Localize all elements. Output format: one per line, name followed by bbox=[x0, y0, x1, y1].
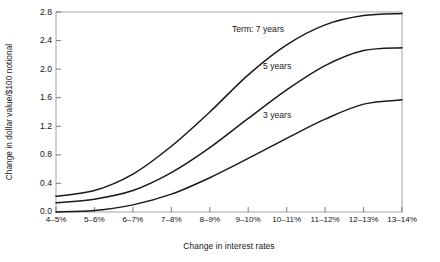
plot-frame bbox=[56, 12, 402, 212]
y-tick-label: 0.8 bbox=[26, 150, 52, 159]
series-label-7-years: Term: 7 years bbox=[232, 24, 284, 34]
y-tick-label: 2.8 bbox=[26, 8, 52, 17]
x-axis-tick-labels: 4–5% 5–6% 6–7% 7–8% 8–9% 9–10% 10–11% 11… bbox=[0, 215, 440, 229]
y-tick-label: 0.4 bbox=[26, 179, 52, 188]
y-tick-label: 2.0 bbox=[26, 65, 52, 74]
series-label-3-years: 3 years bbox=[263, 110, 291, 120]
chart-figure: Change in dollar value/$100 notional 2.8… bbox=[0, 0, 440, 262]
series-label-5-years: 5 years bbox=[263, 61, 291, 71]
x-axis-title: Change in interest rates bbox=[56, 241, 402, 251]
y-tick-label: 1.2 bbox=[26, 122, 52, 131]
y-tick-label: 1.6 bbox=[26, 93, 52, 102]
y-tick-label: 2.4 bbox=[26, 36, 52, 45]
x-tick-label: 13–14% bbox=[375, 215, 429, 225]
